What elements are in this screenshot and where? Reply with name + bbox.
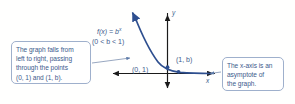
leader-line-left-callout <box>92 58 130 63</box>
function-label-text: f(x) = b <box>97 28 119 35</box>
callout-left-line-1: The graph falls from <box>16 45 86 54</box>
callout-right-line-3: the graph. <box>227 79 279 88</box>
function-label: f(x) = bx <box>97 27 121 37</box>
callout-left-line-4: (0, 1) and (1, b). <box>16 73 86 82</box>
callout-right-line-1: The x-axis is an <box>227 61 279 70</box>
callout-graph-falls: The graph falls from left to right, pass… <box>11 41 91 84</box>
curve-upper-arrow <box>133 13 137 22</box>
callout-asymptote: The x-axis is an asymptote of the graph. <box>222 57 284 91</box>
y-axis-label: y <box>172 8 175 18</box>
function-exponent: x <box>119 26 122 32</box>
point-marker-1-b <box>177 70 181 74</box>
callout-left-line-3: through the points <box>16 63 86 72</box>
function-constraint-label: (0 < b < 1) <box>92 37 124 47</box>
point-label-y-intercept: (0, 1) <box>132 65 148 75</box>
x-axis-label: x <box>206 76 209 86</box>
point-marker-0-1 <box>166 65 170 69</box>
callout-left-line-2: left to right, passing <box>16 54 86 63</box>
exponential-decay-figure: f(x) = bx (0 < b < 1) (0, 1) (1, b) y x … <box>0 0 295 104</box>
axes-group <box>113 13 215 88</box>
callout-right-line-2: asymptote of <box>227 70 279 79</box>
point-label-1-b: (1, b) <box>176 55 192 65</box>
